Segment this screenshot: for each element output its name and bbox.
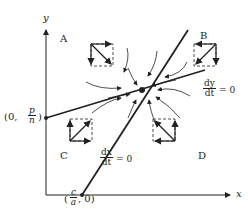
x-axis-label: x: [236, 188, 242, 199]
equilibrium-point: [139, 87, 145, 93]
x-intercept-frac: ca: [70, 188, 77, 207]
region-a-label: A: [60, 33, 67, 44]
dy-nullcline: [46, 70, 205, 118]
y-intercept-suffix: ): [38, 111, 42, 122]
dx-nullcline: [82, 30, 188, 195]
dy-nullcline-label: dydt: [203, 79, 216, 98]
x-intercept-prefix: (: [64, 193, 68, 204]
diagram-graphics: [0, 0, 248, 211]
phase-diagram: y x A B C D dydt = 0 dxdt = 0 (0, pn ) (…: [0, 0, 248, 211]
y-intercept-prefix: (0,: [4, 111, 17, 122]
x-intercept-suffix: , 0): [78, 193, 95, 204]
y-intercept-point: [44, 116, 48, 120]
dx-eq: = 0: [116, 154, 132, 164]
dy-eq: = 0: [219, 85, 235, 95]
region-d-label: D: [198, 150, 206, 161]
y-intercept-frac: pn: [28, 106, 36, 125]
region-b-label: B: [200, 30, 207, 41]
region-c-label: C: [60, 150, 68, 161]
dx-nullcline-label: dxdt: [100, 148, 113, 167]
y-axis-label: y: [43, 12, 49, 23]
